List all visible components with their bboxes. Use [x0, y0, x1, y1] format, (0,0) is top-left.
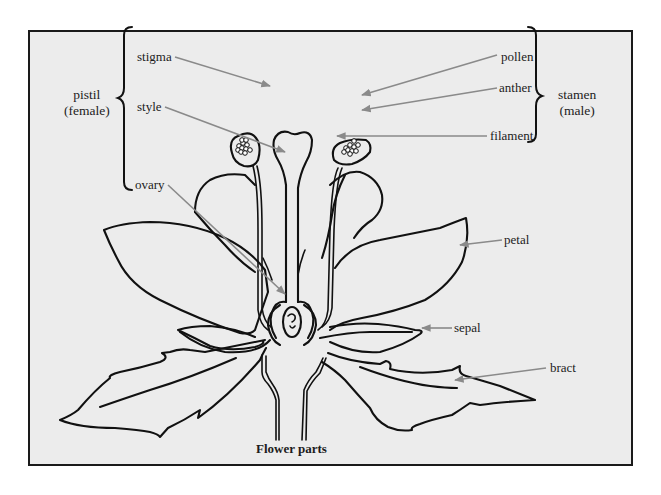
pollen-leader — [362, 55, 497, 95]
left-bract — [60, 340, 266, 437]
label-style: style — [137, 100, 162, 114]
left-pollen — [236, 138, 253, 156]
pistil-sublabel: (female) — [64, 103, 110, 119]
label-petal: petal — [504, 233, 529, 247]
stigma-style — [274, 132, 313, 302]
stamen-sublabel: (male) — [558, 103, 596, 119]
stamen-label: stamen — [558, 87, 596, 103]
stem — [262, 355, 276, 440]
right-filament — [318, 168, 338, 330]
pistil-brace — [118, 27, 132, 190]
label-ovary: ovary — [135, 178, 165, 192]
pistil-label: pistil — [64, 87, 110, 103]
right-petal — [330, 218, 467, 330]
label-anther: anther — [499, 81, 531, 95]
stigma-leader — [175, 57, 270, 86]
stamen-group-label: stamen (male) — [558, 87, 596, 119]
left-petal — [104, 222, 268, 334]
label-bract: bract — [550, 361, 576, 375]
ovary-leader — [168, 185, 285, 294]
diagram-caption: Flower parts — [256, 441, 327, 457]
right-sepal — [330, 323, 422, 352]
label-stigma: stigma — [137, 50, 172, 64]
bract-leader — [455, 368, 546, 380]
label-sepal: sepal — [454, 321, 481, 335]
right-bract — [322, 353, 535, 431]
flower-drawing — [0, 0, 661, 495]
label-filament: filament — [490, 129, 533, 143]
anther-leader — [362, 88, 497, 110]
pistil-group-label: pistil (female) — [64, 87, 110, 119]
label-pollen: pollen — [501, 50, 534, 64]
style-leader — [165, 107, 285, 152]
left-sepal — [178, 326, 263, 349]
back-left-petal — [195, 174, 255, 212]
